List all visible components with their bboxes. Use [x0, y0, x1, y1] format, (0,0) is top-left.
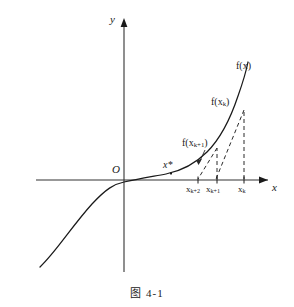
tick-label-xk1-sub: k+1: [211, 188, 221, 194]
fxk1-label: f(xk+1): [182, 138, 208, 149]
figure-container: y x O f(x) f(xk) f(xk+1) x* xk+2 xk+1 xk…: [0, 0, 294, 307]
root-label: x*: [163, 160, 172, 170]
tick-label-xk1: xk+1: [206, 185, 220, 194]
tangent-line-xk1: [198, 148, 217, 179]
x-axis: [36, 177, 268, 184]
tick-label-xk-sub: k: [243, 188, 246, 194]
fxk1-label-head: f(x: [182, 137, 194, 148]
root-marker: [170, 173, 172, 175]
tangent-line-xk: [216, 110, 244, 179]
fxk1-label-tail: ): [204, 137, 207, 148]
curve-label: f(x): [236, 61, 251, 71]
origin-label: O: [112, 164, 120, 175]
tick-label-xk2-sub: k+2: [191, 188, 201, 194]
fxk-label: f(xk): [211, 97, 229, 108]
newton-method-diagram: [0, 0, 294, 307]
x-axis-label: x: [272, 182, 277, 193]
fxk1-label-sub: k+1: [194, 141, 205, 148]
y-axis: [121, 18, 128, 272]
figure-caption: 图 4-1: [0, 284, 294, 300]
fxk-label-tail: ): [226, 96, 229, 107]
tick-label-xk2: xk+2: [186, 185, 200, 194]
fxk-label-head: f(x: [211, 96, 223, 107]
y-axis-label: y: [110, 14, 115, 25]
tick-label-xk: xk: [238, 185, 246, 194]
